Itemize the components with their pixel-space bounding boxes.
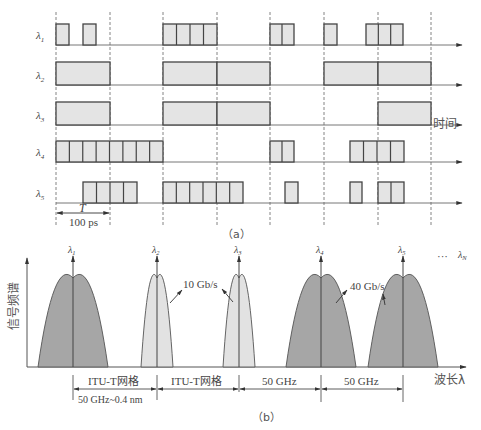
wdm-diagram: λ1λ2λ3λ4λ5 （a） 时间 T 100 ps λ1λ2λ3λ4λ5λN … (0, 0, 481, 430)
pulse-block (163, 102, 217, 125)
wavelength-label: λ4 (315, 244, 324, 256)
pulse-block (324, 24, 337, 45)
wavelength-label: λ1 (67, 244, 76, 256)
spectrum-peak-5: λ5 (368, 244, 438, 367)
wavelength-label-n: λN (457, 249, 467, 261)
channel-row-3: λ3 (35, 102, 462, 125)
channel-row-5: λ5 (35, 182, 462, 203)
spacing-label-itu-2: ITU-T网格 (171, 374, 222, 387)
pulse-block (285, 182, 298, 203)
channel-label: λ2 (35, 69, 45, 84)
grid-note: 50 GHz~0.4 nm (78, 394, 143, 405)
wavelength-label: λ2 (151, 244, 160, 256)
spectrum-peak-3: λ3 (223, 244, 255, 367)
spacing-label-itu-1: ITU-T网格 (88, 374, 139, 387)
pulse-block (56, 62, 110, 85)
y-axis-label: 信号频谱 (7, 282, 21, 330)
pulse-block (163, 62, 217, 85)
pulse-block (217, 62, 270, 85)
pulse-block (350, 182, 362, 203)
channel-row-1: λ1 (35, 24, 462, 45)
ellipsis: ··· (437, 250, 448, 262)
part-b-caption: （b） (252, 411, 281, 424)
pulse-block (324, 62, 378, 85)
spectrum-peak-2: λ2 (141, 244, 173, 367)
pulse-block (56, 102, 110, 125)
spacing-label-50ghz-2: 50 GHz (344, 375, 379, 387)
pulse-block (378, 102, 431, 125)
rate-pointer-arrow (170, 290, 182, 303)
spectrum-peak-4: λ4 (286, 244, 356, 367)
rate-label-40g: 40 Gb/s (350, 280, 385, 292)
pulse-block (378, 62, 431, 85)
time-slot-diagram: λ1λ2λ3λ4λ5 (35, 12, 462, 225)
wavelength-label: λ3 (233, 244, 242, 256)
channel-row-2: λ2 (35, 62, 462, 85)
wavelength-label: λ5 (397, 244, 406, 256)
pulse-block (217, 102, 270, 125)
x-axis-label: 波长λ (434, 373, 465, 387)
time-axis-label: 时间 (433, 117, 457, 131)
pulse-block (83, 24, 96, 45)
pulse-block (56, 24, 69, 45)
channel-label: λ3 (35, 109, 45, 124)
period-value: 100 ps (69, 216, 98, 228)
channel-label: λ4 (35, 146, 45, 161)
channel-row-4: λ4 (35, 141, 462, 162)
channel-label: λ5 (35, 187, 45, 202)
spacing-label-50ghz-1: 50 GHz (262, 375, 297, 387)
rate-label-10g: 10 Gb/s (183, 278, 218, 290)
pulse-block (366, 24, 403, 45)
spectrum-peak-1: λ1 (38, 244, 108, 367)
channel-label: λ1 (35, 29, 44, 44)
part-a-caption: （a） (222, 228, 251, 241)
